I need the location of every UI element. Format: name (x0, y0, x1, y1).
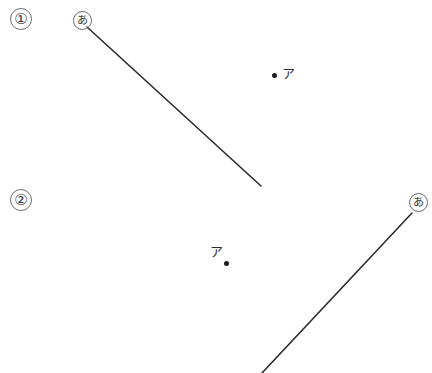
segment-problem-1 (87, 27, 261, 186)
point-label-problem-2: ア (210, 245, 223, 258)
vertex-marker-problem-1: あ (73, 11, 92, 30)
problem-index-1: ① (10, 8, 32, 30)
point-label-problem-1: ア (282, 67, 295, 80)
point-dot-problem-2 (224, 261, 229, 266)
segment-problem-2 (262, 213, 412, 373)
point-dot-problem-1 (272, 73, 277, 78)
geometry-figure: ① あ ア ② あ ア (0, 0, 432, 373)
vertex-marker-problem-2: あ (409, 193, 428, 212)
problem-index-2: ② (10, 189, 32, 211)
figure-canvas (0, 0, 432, 373)
